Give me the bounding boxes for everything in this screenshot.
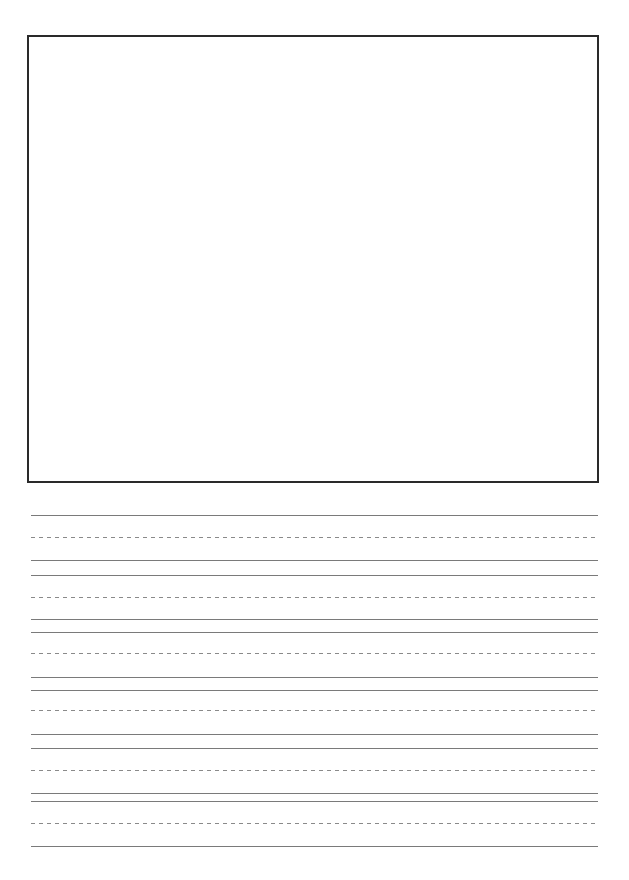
top-line [31, 515, 598, 516]
baseline [31, 846, 598, 847]
top-line [31, 748, 598, 749]
midline-dashed [31, 537, 598, 538]
baseline [31, 560, 598, 561]
top-line [31, 690, 598, 691]
top-line [31, 575, 598, 576]
baseline [31, 734, 598, 735]
midline-dashed [31, 710, 598, 711]
baseline [31, 677, 598, 678]
top-line [31, 801, 598, 802]
midline-dashed [31, 597, 598, 598]
baseline [31, 619, 598, 620]
midline-dashed [31, 770, 598, 771]
baseline [31, 793, 598, 794]
drawing-box [27, 35, 599, 483]
top-line [31, 632, 598, 633]
midline-dashed [31, 653, 598, 654]
midline-dashed [31, 823, 598, 824]
